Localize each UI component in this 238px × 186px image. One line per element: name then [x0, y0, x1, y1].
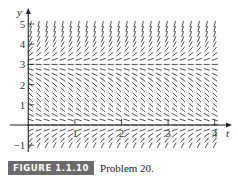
slope-segment [69, 36, 71, 42]
slope-segment [124, 103, 129, 107]
slope-segment [188, 73, 193, 76]
slope-segment [204, 58, 210, 60]
slope-segment [92, 83, 97, 87]
slope-segment [124, 93, 128, 97]
slope-segment [60, 119, 66, 121]
slope-segment [109, 143, 112, 148]
slope-segment [93, 36, 95, 42]
slope-segment [132, 98, 137, 102]
slope-segment [116, 113, 121, 116]
slope-segment [84, 52, 89, 56]
slope-segment [92, 69, 98, 71]
slope-segment [108, 103, 113, 107]
slope-segment [76, 83, 81, 87]
slope-segment [165, 42, 168, 47]
slope-segment [36, 52, 41, 56]
slope-segment [180, 93, 184, 97]
slope-segment [29, 36, 31, 42]
slope-segment [149, 143, 152, 148]
slope-segment [101, 42, 104, 47]
slope-segment [204, 69, 210, 71]
slope-segment [100, 58, 106, 60]
slope-segment [77, 143, 80, 148]
slope-segment [148, 83, 153, 87]
slope-segment [44, 88, 49, 92]
slope-segment [92, 103, 97, 107]
slope-segment [44, 78, 49, 82]
slope-segment [205, 42, 208, 47]
slope-segment [180, 119, 186, 121]
slope-segment [84, 108, 89, 112]
slope-segment [108, 88, 113, 92]
slope-segment [124, 83, 129, 87]
slope-segment [181, 36, 183, 42]
slope-segment [164, 58, 170, 60]
slope-segment [60, 78, 65, 82]
slope-segment [76, 73, 81, 76]
slope-segment [52, 58, 58, 60]
slope-segment [156, 133, 161, 137]
slope-segment [77, 47, 81, 52]
slope-segment [100, 113, 105, 116]
slope-segment [180, 133, 185, 137]
slope-segment [36, 93, 40, 97]
slope-segment [188, 103, 193, 107]
slope-segment [148, 52, 153, 56]
slope-segment [60, 58, 66, 60]
slope-segment [132, 119, 138, 121]
slope-segment [60, 103, 65, 107]
slope-segment [132, 108, 137, 112]
slope-segment [84, 78, 89, 82]
slope-segment [76, 88, 81, 92]
slope-segment [124, 58, 130, 60]
slope-segment [125, 42, 128, 47]
slope-segment [188, 69, 194, 71]
slope-segment [196, 129, 202, 131]
slope-segment [52, 133, 57, 137]
slope-segment [92, 119, 98, 121]
slope-segment [140, 98, 145, 102]
slope-segment [117, 36, 119, 42]
slope-segment [172, 73, 177, 76]
slope-segment [124, 119, 130, 121]
slope-segment [189, 42, 192, 47]
slope-segment [116, 58, 122, 60]
slope-segment [172, 98, 176, 102]
slope-segment [149, 36, 151, 42]
slope-segment [132, 113, 137, 116]
y-axis-label: y [16, 6, 22, 18]
slope-segment [117, 47, 121, 52]
slope-segment [124, 52, 129, 56]
slope-segment [181, 143, 184, 148]
slope-segment [173, 42, 176, 47]
slope-segment [188, 113, 193, 116]
slope-segment [85, 143, 88, 148]
slope-segment [76, 52, 81, 56]
slope-segment [93, 138, 97, 143]
slope-segment [100, 133, 105, 137]
slope-segment [156, 93, 160, 97]
slope-segment [84, 69, 90, 71]
slope-segment [156, 83, 161, 87]
slope-segment [44, 119, 50, 121]
slope-field-chart: −1123451234ty [0, 0, 238, 160]
slope-segment [116, 108, 121, 112]
slope-segment [196, 93, 200, 97]
slope-segment [172, 113, 177, 116]
slope-segment [61, 143, 64, 148]
slope-segment [60, 113, 65, 116]
slope-segment [156, 78, 161, 82]
slope-segment [140, 103, 145, 107]
slope-segment [45, 138, 49, 143]
slope-segment [156, 119, 162, 121]
slope-segment [188, 119, 194, 121]
slope-segment [28, 78, 33, 82]
slope-segment [196, 73, 201, 76]
slope-segment [108, 93, 112, 97]
slope-segment [165, 143, 168, 148]
slope-segment [45, 42, 48, 47]
slope-segment [76, 119, 82, 121]
slope-segment [36, 58, 42, 60]
slope-segment [133, 36, 135, 42]
slope-segment [68, 69, 74, 71]
